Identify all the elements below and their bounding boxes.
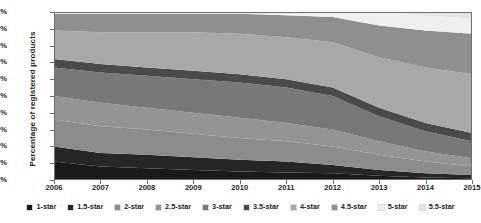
y-tick-30%: 30%	[0, 126, 7, 134]
y-tick-60%: 60%	[0, 75, 7, 83]
x-tick-2009: 2009	[171, 183, 215, 192]
legend-item-3.5-star[interactable]: 3.5-star	[243, 203, 279, 211]
legend-item-5.5-star[interactable]: 5.5-star	[419, 203, 455, 211]
x-tick-mark	[147, 180, 148, 184]
legend-swatch-4-star	[290, 204, 297, 211]
legend-swatch-4.5-star	[331, 204, 338, 211]
legend-label: 2-star	[124, 203, 144, 211]
x-tick-2007: 2007	[78, 183, 122, 192]
plot-area	[54, 12, 472, 180]
legend-label: 3-star	[212, 203, 232, 211]
x-tick-mark	[193, 180, 194, 184]
y-tick-50%: 50%	[0, 92, 7, 100]
y-tick-0%: 0%	[0, 176, 7, 184]
x-tick-mark	[426, 180, 427, 184]
legend-swatch-3.5-star	[243, 204, 250, 211]
y-tick-20%: 20%	[0, 142, 7, 150]
legend-swatch-2-star	[114, 204, 121, 211]
x-tick-mark	[286, 180, 287, 184]
legend-label: 2.5-star	[165, 203, 191, 211]
legend-item-4.5-star[interactable]: 4.5-star	[331, 203, 367, 211]
x-tick-2014: 2014	[404, 183, 448, 192]
y-tick-90%: 90%	[0, 25, 7, 33]
x-tick-2010: 2010	[218, 183, 262, 192]
y-tick-10%: 10%	[0, 159, 7, 167]
x-tick-2012: 2012	[311, 183, 355, 192]
legend-item-2.5-star[interactable]: 2.5-star	[155, 203, 191, 211]
y-tick-70%: 70%	[0, 58, 7, 66]
legend-label: 4.5-star	[341, 203, 367, 211]
y-tick-80%: 80%	[0, 42, 7, 50]
y-axis-title: Percentage of registered products	[26, 14, 40, 184]
legend-swatch-5.5-star	[419, 204, 426, 211]
y-tick-100%: 100%	[0, 8, 7, 16]
x-tick-2015: 2015	[450, 183, 481, 192]
x-tick-2011: 2011	[264, 183, 308, 192]
legend-label: 5-star	[388, 203, 408, 211]
x-tick-2008: 2008	[125, 183, 169, 192]
x-tick-mark	[379, 180, 380, 184]
x-tick-mark	[100, 180, 101, 184]
legend-item-5-star[interactable]: 5-star	[378, 203, 408, 211]
chart-container: Percentage of registered products 0%10%2…	[0, 0, 481, 223]
x-tick-mark	[333, 180, 334, 184]
legend-item-1.5-star[interactable]: 1.5-star	[67, 203, 103, 211]
legend-swatch-5-star	[378, 204, 385, 211]
x-tick-2013: 2013	[357, 183, 401, 192]
legend-swatch-1-star	[26, 204, 33, 211]
legend-swatch-3-star	[202, 204, 209, 211]
chart-legend: 1-star1.5-star2-star2.5-star3-star3.5-st…	[0, 203, 481, 211]
legend-item-2-star[interactable]: 2-star	[114, 203, 144, 211]
legend-label: 5.5-star	[429, 203, 455, 211]
legend-label: 1.5-star	[77, 203, 103, 211]
x-tick-mark	[240, 180, 241, 184]
legend-item-4-star[interactable]: 4-star	[290, 203, 320, 211]
stacked-area-svg	[54, 12, 472, 180]
legend-item-3-star[interactable]: 3-star	[202, 203, 232, 211]
legend-label: 3.5-star	[253, 203, 279, 211]
x-tick-2006: 2006	[32, 183, 76, 192]
legend-swatch-2.5-star	[155, 204, 162, 211]
legend-swatch-1.5-star	[67, 204, 74, 211]
legend-item-1-star[interactable]: 1-star	[26, 203, 56, 211]
legend-label: 1-star	[36, 203, 56, 211]
legend-label: 4-star	[300, 203, 320, 211]
x-tick-mark	[54, 180, 55, 184]
y-tick-40%: 40%	[0, 109, 7, 117]
x-tick-mark	[472, 180, 473, 184]
